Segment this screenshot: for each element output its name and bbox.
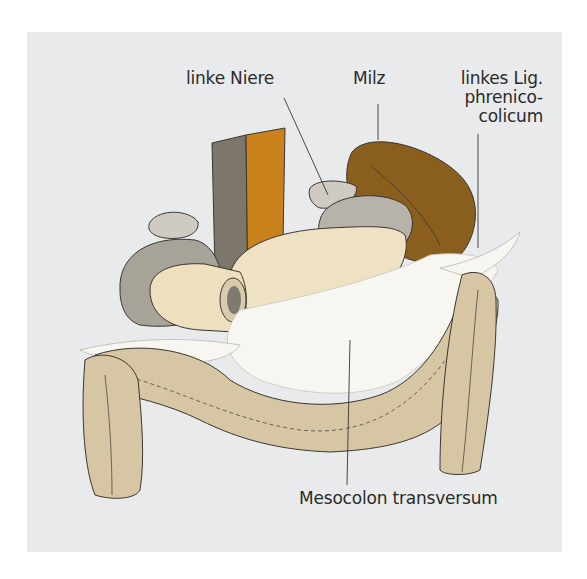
duodenum-lumen-inner [227,286,241,314]
label-lig-phrenicocolicum: linkes Lig. phrenico- colicum [403,69,543,126]
label-milz: Milz [353,69,385,88]
leader-linke-niere [284,98,328,195]
label-lig-line3: colicum [403,107,543,126]
label-linke-niere: linke Niere [186,69,274,88]
right-adrenal [149,212,198,238]
label-lig-line2: phrenico- [403,88,543,107]
label-mesocolon-transversum: Mesocolon transversum [299,489,498,508]
ascending-colon [83,355,143,498]
label-lig-line1: linkes Lig. [403,69,543,88]
